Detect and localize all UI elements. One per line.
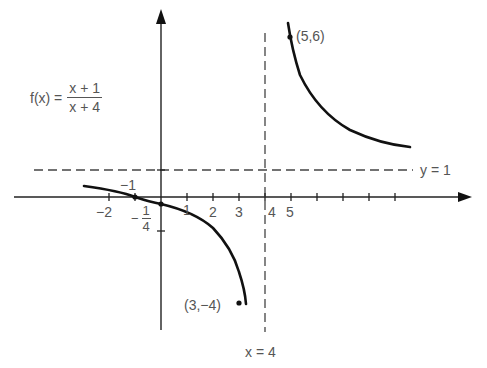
function-formula: f(x) = x + 1 x + 4	[30, 80, 102, 115]
y-intercept-numerator: 1	[142, 203, 151, 219]
formula-denominator: x + 4	[69, 98, 100, 115]
y-intercept-label: − 1 4	[131, 203, 151, 234]
point-5-6	[287, 34, 292, 39]
formula-numerator: x + 1	[67, 80, 102, 98]
x-tick-label-1: 1	[183, 203, 191, 217]
x-tick-label-4: 4	[268, 205, 276, 219]
point-3-neg4	[236, 300, 241, 305]
point-label-3-neg4: (3,−4)	[184, 298, 221, 312]
point-label-5-6: (5,6)	[296, 29, 325, 43]
x-tick-label-neg2: −2	[96, 205, 112, 219]
formula-fraction: x + 1 x + 4	[67, 80, 102, 115]
x-axis-arrow-icon	[458, 192, 472, 202]
formula-prefix: f(x) =	[30, 90, 62, 106]
vertical-asymptote-label: x = 4	[245, 345, 276, 359]
horizontal-asymptote-label: y = 1	[420, 163, 451, 177]
y-intercept-fraction: 1 4	[142, 203, 151, 234]
x-tick-label-3: 3	[235, 205, 243, 219]
function-graph	[0, 0, 487, 368]
x-tick-label-5: 5	[286, 205, 294, 219]
x-intercept-label: −1	[120, 178, 136, 192]
point-neg1-0	[132, 194, 137, 199]
y-axis-arrow-icon	[156, 9, 166, 24]
x-tick-label-2: 2	[209, 205, 217, 219]
point-0-neg-quarter	[158, 201, 163, 206]
y-intercept-sign: −	[131, 211, 139, 226]
y-intercept-denominator: 4	[143, 219, 150, 234]
